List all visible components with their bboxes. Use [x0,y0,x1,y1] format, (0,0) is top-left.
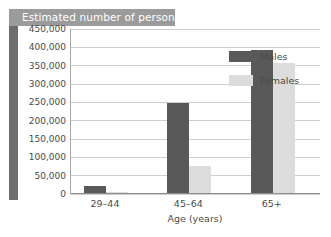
page-title: Estimated number of persons [22,10,172,25]
y-axis-tick-label: 450,000 [29,24,66,34]
y-axis-tick-label: 0 [60,189,66,199]
y-axis-tick-label: 100,000 [29,152,66,162]
y-axis-tick-label: 150,000 [29,134,66,144]
legend-swatch-males [229,51,253,62]
y-axis-tick-label: 400,000 [29,42,66,52]
x-axis-tick-labels: 29–4445–6465+ [70,197,320,211]
y-axis-tick-label: 50,000 [35,171,67,181]
bar-females-0 [106,192,128,193]
y-axis-tick-label: 200,000 [29,116,66,126]
left-edge-band [9,9,18,200]
legend: MalesFemales [229,50,324,98]
bar-males-1 [167,103,189,193]
legend-item: Males [229,50,324,64]
bar-males-0 [84,186,106,193]
x-axis-tick-label: 65+ [262,197,282,210]
legend-label: Females [260,74,299,87]
y-axis-tick-labels: 450,000400,000350,000300,000250,000200,0… [18,29,68,194]
legend-swatch-females [229,75,253,86]
x-axis-tick-label: 45–64 [174,197,203,210]
y-axis-tick-label: 300,000 [29,79,66,89]
x-axis-tick-label: 29–44 [91,197,120,210]
y-axis-tick-label: 350,000 [29,61,66,71]
bar-group [84,29,128,193]
legend-item: Females [229,74,324,88]
bar-females-1 [189,166,211,194]
legend-label: Males [260,50,287,63]
y-axis-tick-label: 250,000 [29,97,66,107]
x-axis-title: Age (years) [70,213,320,224]
gridline [71,194,320,195]
chart-figure: Estimated number of persons 450,000400,0… [0,0,331,237]
bar-group [167,29,211,193]
